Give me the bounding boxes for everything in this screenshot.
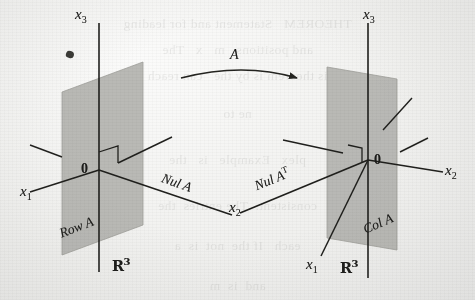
- row-a-plane: [62, 62, 143, 255]
- left-axis-stub-left: [30, 145, 62, 157]
- linear-map-arrow-group: [181, 70, 297, 78]
- codomain-space-group: [240, 23, 443, 278]
- map-arrow-curve: [181, 70, 297, 78]
- vector-diagram-canvas: [0, 0, 475, 300]
- domain-space-group: [30, 23, 232, 272]
- right-axis-stub-middle: [400, 138, 428, 152]
- figure-root: THEOREM Statement and for leading and po…: [0, 0, 475, 300]
